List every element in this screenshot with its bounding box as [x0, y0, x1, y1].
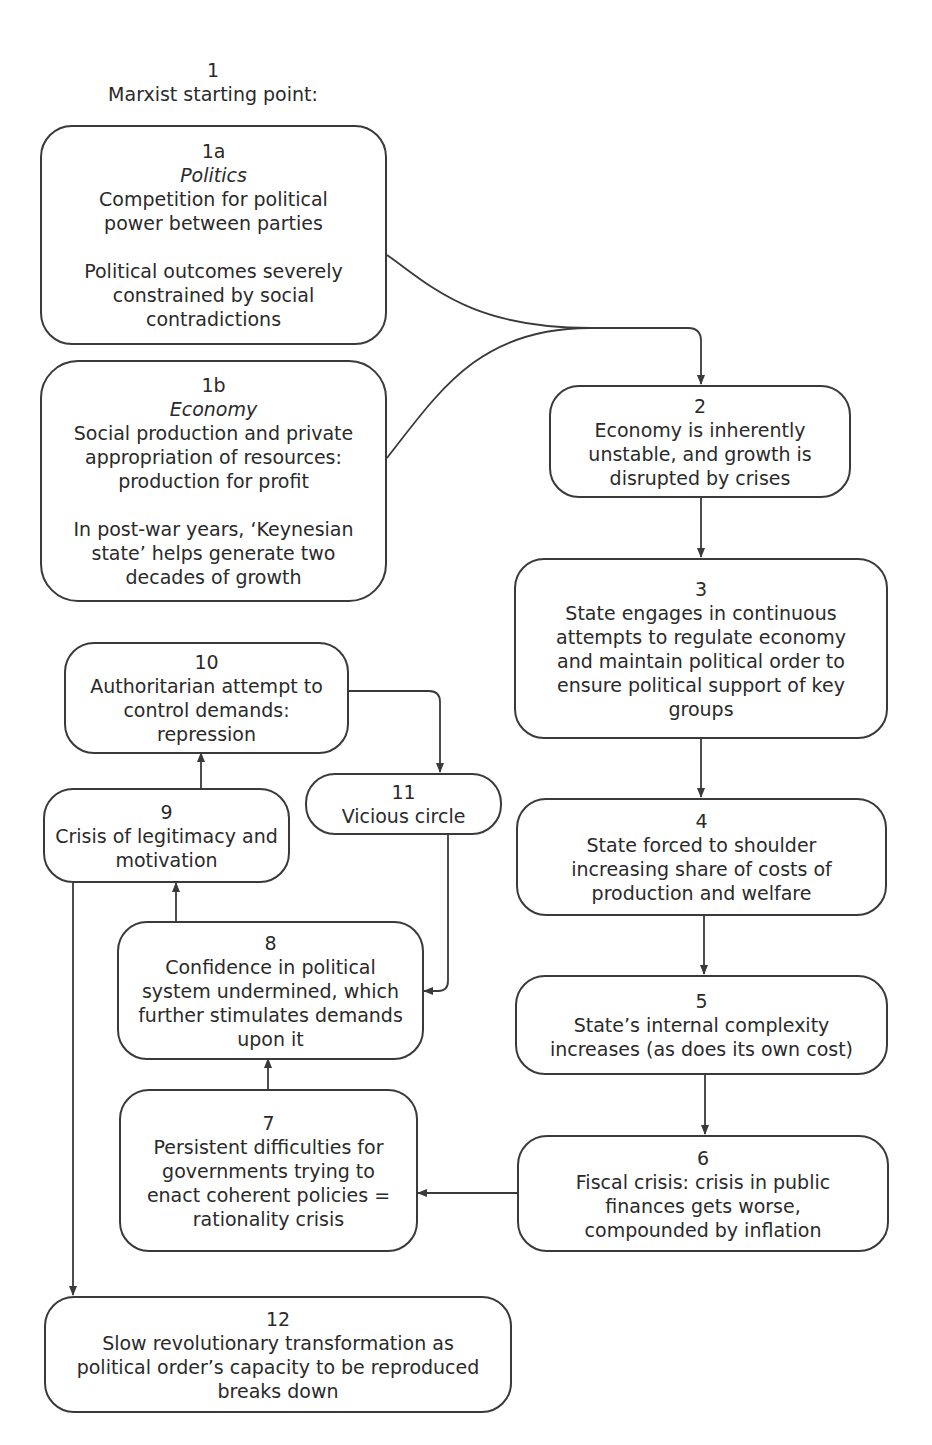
node-number: 10	[194, 650, 218, 674]
node-text: Authoritarian attempt to control demands…	[90, 674, 323, 746]
node-category: Economy	[170, 397, 258, 421]
node-text: State’s internal complexity increases (a…	[550, 1013, 853, 1061]
node-number: 11	[391, 780, 415, 804]
node-text: Slow revolutionary transformation as pol…	[77, 1331, 480, 1403]
node-9: 9 Crisis of legitimacy and motivation	[43, 788, 290, 883]
node-number: 3	[695, 577, 707, 601]
node-text: Social production and private appropriat…	[74, 421, 353, 493]
node-number: 1a	[202, 139, 226, 163]
node-text: State engages in continuous attempts to …	[556, 601, 846, 721]
node-7: 7 Persistent difficulties for government…	[119, 1089, 418, 1252]
edge-1a-2	[387, 255, 590, 328]
node-category: Politics	[180, 163, 247, 187]
node-number: 8	[264, 931, 276, 955]
node-1a-politics: 1a Politics Competition for political po…	[40, 125, 387, 345]
node-1b-economy: 1b Economy Social production and private…	[40, 360, 387, 602]
node-5: 5 State’s internal complexity increases …	[515, 975, 888, 1075]
node-text: Crisis of legitimacy and motivation	[55, 824, 278, 872]
node-text: Persistent difficulties for governments …	[147, 1135, 390, 1231]
node-10: 10 Authoritarian attempt to control dema…	[64, 642, 349, 754]
edge-merge-2	[590, 328, 701, 384]
node-text: State forced to shoulder increasing shar…	[571, 833, 832, 905]
node-text: Confidence in political system undermine…	[138, 955, 403, 1051]
node-text: Economy is inherently unstable, and grow…	[588, 418, 811, 490]
node-text: Fiscal crisis: crisis in public finances…	[576, 1170, 830, 1242]
node-number: 5	[695, 989, 707, 1013]
node-text: Vicious circle	[342, 804, 466, 828]
node-4: 4 State forced to shoulder increasing sh…	[516, 798, 887, 916]
node-2: 2 Economy is inherently unstable, and gr…	[549, 385, 851, 498]
node-number: 12	[266, 1307, 290, 1331]
diagram-header: 1 Marxist starting point:	[40, 58, 386, 106]
header-title: Marxist starting point:	[40, 82, 386, 106]
node-number: 1b	[201, 373, 225, 397]
edge-10-11	[348, 691, 440, 772]
node-number: 6	[697, 1146, 709, 1170]
node-3: 3 State engages in continuous attempts t…	[514, 558, 888, 739]
node-number: 2	[694, 394, 706, 418]
node-number: 7	[262, 1111, 274, 1135]
node-12: 12 Slow revolutionary transformation as …	[44, 1296, 512, 1413]
node-text-secondary: Political outcomes severely constrained …	[84, 259, 343, 331]
node-6: 6 Fiscal crisis: crisis in public financ…	[517, 1135, 889, 1252]
edge-11-8	[424, 834, 448, 991]
node-number: 4	[695, 809, 707, 833]
node-text-secondary: In post-war years, ‘Keynesian state’ hel…	[73, 517, 353, 589]
node-number: 9	[160, 800, 172, 824]
node-8: 8 Confidence in political system undermi…	[117, 921, 424, 1060]
node-text: Competition for political power between …	[99, 187, 328, 235]
node-11-vicious-circle: 11 Vicious circle	[305, 773, 502, 835]
header-number: 1	[40, 58, 386, 82]
